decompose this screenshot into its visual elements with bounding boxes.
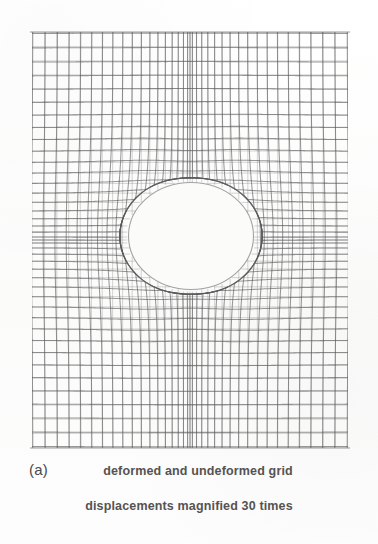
mesh-line	[27, 230, 120, 232]
figure-root: (a) deformed and undeformed grid displac…	[0, 0, 378, 544]
mesh-line	[197, 29, 200, 178]
caption-line-2: displacements magnified 30 times	[0, 494, 378, 516]
mesh-line	[186, 29, 187, 178]
caption-line-2-text: displacements magnified 30 times	[85, 495, 293, 517]
mesh-line	[27, 240, 120, 242]
mesh-line	[202, 29, 207, 179]
mesh-line	[31, 29, 33, 448]
mesh-line	[262, 230, 352, 232]
mesh-line	[215, 29, 228, 185]
mesh-line	[192, 294, 193, 449]
mesh-line	[29, 404, 351, 405]
mesh-line	[347, 29, 349, 448]
mesh-line	[197, 294, 199, 449]
mesh-line	[180, 29, 184, 178]
mesh-line	[260, 222, 352, 226]
caption-line-1: deformed and undeformed grid	[0, 458, 378, 482]
mesh-line	[215, 287, 228, 449]
mesh-line	[29, 75, 351, 76]
mesh-line	[192, 29, 193, 178]
mesh-line	[27, 221, 122, 226]
mesh-line	[256, 211, 352, 219]
mesh-line	[202, 293, 207, 449]
mesh-line	[172, 293, 178, 449]
mesh-line	[180, 294, 184, 449]
mesh-line	[107, 29, 113, 449]
mesh-line	[173, 29, 179, 179]
mesh-line	[267, 29, 273, 449]
hole-interior	[129, 183, 254, 290]
mesh-line	[261, 243, 352, 246]
mesh-line	[28, 340, 351, 341]
hole-region	[129, 183, 254, 290]
caption-line-1-text: deformed and undeformed grid	[85, 459, 293, 483]
mesh-line	[262, 240, 352, 242]
mesh-line	[27, 248, 123, 253]
